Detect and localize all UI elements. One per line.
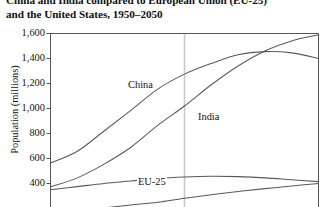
figure: China and India compared to European Uni… <box>0 0 326 207</box>
series-label-india: India <box>197 111 220 122</box>
y-axis-ticks <box>47 34 51 184</box>
series-label-china: China <box>127 79 154 90</box>
series-label-eu25: EU-25 <box>137 176 167 187</box>
